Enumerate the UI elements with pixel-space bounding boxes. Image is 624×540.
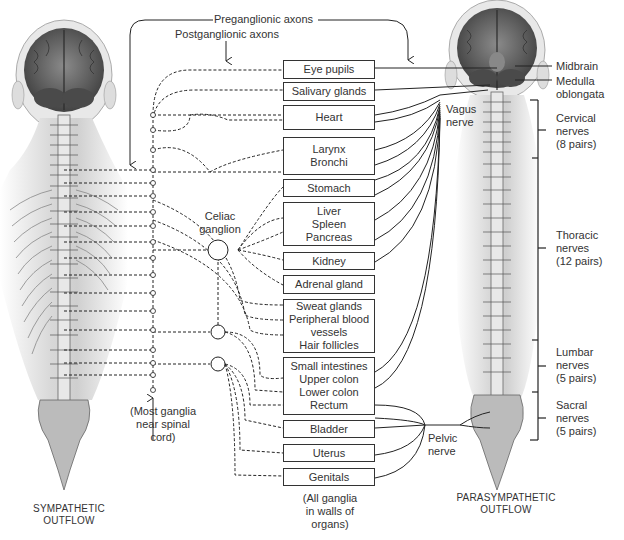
parasympathetic-figure (445, 0, 549, 490)
organ-adrenal-gland: Adrenal gland (283, 275, 375, 294)
midbrain-label: Midbrain (556, 60, 598, 73)
celiac-ganglion-label: Celiac ganglion (194, 210, 246, 236)
organ-liver-spleen-pancreas: Liver Spleen Pancreas (283, 202, 375, 246)
thoracic-nerves-label: Thoracic nerves (12 pairs) (556, 229, 602, 268)
sympathetic-outflow-caption: SYMPATHETIC OUTFLOW (24, 503, 114, 527)
sacral-nerves-label: Sacral nerves (5 pairs) (556, 399, 596, 438)
sympathetic-figure (0, 20, 128, 490)
vagus-nerve-label: Vagus nerve (446, 103, 476, 129)
postganglionic-axons-label: Postganglionic axons (175, 28, 279, 41)
organ-larynx-bronchi: Larynx Bronchi (283, 137, 375, 175)
celiac-ganglion (208, 240, 228, 260)
cervical-nerves-label: Cervical nerves (8 pairs) (556, 112, 596, 151)
organ-uterus: Uterus (283, 444, 375, 462)
sympathetic-ganglia-note: (Most ganglia near spinal cord) (120, 405, 206, 444)
organ-stomach: Stomach (283, 179, 375, 197)
organ-salivary-glands: Salivary glands (283, 82, 375, 101)
organ-genitals: Genitals (283, 468, 375, 486)
pelvic-nerve-label: Pelvic nerve (428, 432, 457, 458)
organ-eye-pupils: Eye pupils (283, 60, 375, 79)
parasympathetic-outflow-caption: PARASYMPATHETIC OUTFLOW (446, 492, 566, 516)
organ-intestines: Small intestines Upper colon Lower colon… (283, 357, 375, 415)
inferior-mesenteric-ganglion (211, 357, 225, 371)
superior-mesenteric-ganglion (211, 325, 225, 339)
preganglionic-axons-label: Preganglionic axons (214, 13, 313, 26)
medulla-oblongata-label: Medulla oblongata (556, 75, 604, 101)
organ-bladder: Bladder (283, 420, 375, 438)
organ-kidney: Kidney (283, 252, 375, 270)
parasympathetic-ganglia-note: (All ganglia in walls of organs) (294, 492, 366, 531)
organ-sweat-glands: Sweat glands Peripheral blood vessels Ha… (283, 299, 375, 353)
organ-heart: Heart (283, 105, 375, 130)
autonomic-nervous-system-diagram: Preganglionic axons Postganglionic axons… (0, 0, 624, 540)
lumbar-nerves-label: Lumbar nerves (5 pairs) (556, 346, 596, 385)
